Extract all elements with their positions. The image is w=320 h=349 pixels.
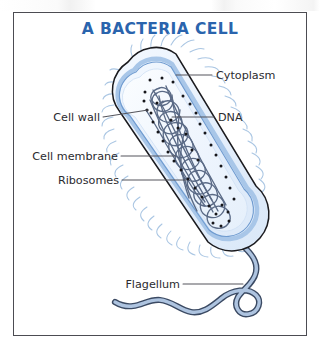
figure-root: A BACTERIA CELL: [0, 0, 320, 349]
label-cytoplasm: Cytoplasm: [216, 69, 275, 82]
label-ribosomes: Ribosomes: [0, 174, 119, 187]
label-cell-membrane: Cell membrane: [0, 150, 118, 163]
label-cell-wall: Cell wall: [0, 111, 100, 124]
label-dna: DNA: [218, 111, 243, 124]
label-flagellum: Flagellum: [0, 278, 180, 291]
